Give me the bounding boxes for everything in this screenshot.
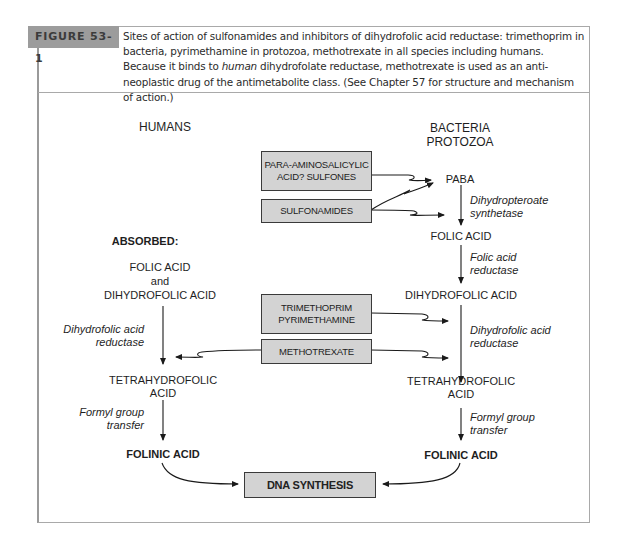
bact-folic-acid: FOLIC ACID xyxy=(411,230,511,243)
dna-synthesis-label: DNA SYNTHESIS xyxy=(267,479,353,491)
bact-folinic-acid: FOLINIC ACID xyxy=(406,449,516,462)
tmp-line2: PYRIMETHAMINE xyxy=(278,314,355,326)
human-enzyme2-line2: transfer xyxy=(40,419,144,432)
bact-enzyme4-line1: Formyl group xyxy=(470,411,535,424)
bact-enzyme2-line1: Folic acid xyxy=(470,251,516,264)
humans-header: HUMANS xyxy=(110,120,220,134)
pas-line2: ACID? SULFONES xyxy=(277,171,356,183)
bact-enzyme1-line2: synthetase xyxy=(470,207,523,220)
trimethoprim-pyrimethamine-box: TRIMETHOPRIM PYRIMETHAMINE xyxy=(261,294,372,334)
bact-enzyme2-line2: reductase xyxy=(470,264,518,277)
bact-enzyme3-line2: reductase xyxy=(470,337,518,350)
human-enzyme1-line1: Dihydrofolic acid xyxy=(40,323,144,336)
pas-sulfones-box: PARA-AMINOSALICYLIC ACID? SULFONES xyxy=(261,151,372,191)
human-and: and xyxy=(95,275,225,288)
human-folic-acid: FOLIC ACID xyxy=(95,261,225,274)
human-thf-line2: ACID xyxy=(98,387,228,400)
sulfonamides-label: SULFONAMIDES xyxy=(280,205,353,217)
bact-enzyme3-line1: Dihydrofolic acid xyxy=(470,324,551,337)
human-enzyme1-line2: reductase xyxy=(40,336,144,349)
pas-line1: PARA-AMINOSALICYLIC xyxy=(264,159,368,171)
methotrexate-box: METHOTREXATE xyxy=(261,339,372,364)
bact-dihydrofolic-acid: DIHYDROFOLIC ACID xyxy=(391,289,531,302)
sulfonamides-box: SULFONAMIDES xyxy=(261,199,372,223)
human-dihydrofolic-acid: DIHYDROFOLIC ACID xyxy=(90,289,230,302)
bacteria-header-line1: BACTERIA xyxy=(410,121,510,135)
bact-thf-line1: TETRAHYDROFOLIC xyxy=(396,375,526,388)
absorbed-label: ABSORBED: xyxy=(100,235,190,248)
bacteria-header-line2: PROTOZOA xyxy=(410,135,510,149)
human-folinic-acid: FOLINIC ACID xyxy=(108,448,218,461)
human-thf-line1: TETRAHYDROFOLIC xyxy=(98,374,228,387)
bact-enzyme1-line1: Dihydropteroate xyxy=(470,194,548,207)
dna-synthesis-box: DNA SYNTHESIS xyxy=(244,472,376,498)
tmp-line1: TRIMETHOPRIM xyxy=(281,302,352,314)
paba-label: PABA xyxy=(430,173,490,186)
human-enzyme2-line1: Formyl group xyxy=(40,406,144,419)
bact-enzyme4-line2: transfer xyxy=(470,424,507,437)
bact-thf-line2: ACID xyxy=(396,388,526,401)
methotrexate-label: METHOTREXATE xyxy=(279,346,354,358)
